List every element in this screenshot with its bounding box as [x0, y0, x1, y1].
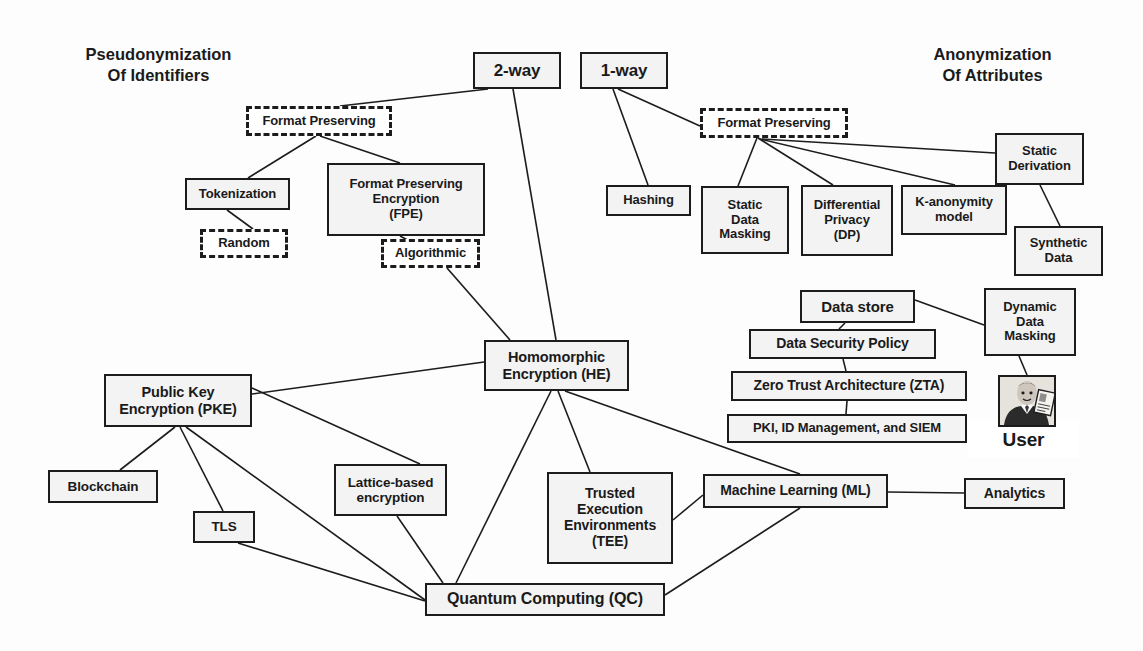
node-qc-label: Quantum Computing (QC) — [447, 590, 643, 608]
node-ml-label: Machine Learning (ML) — [720, 483, 870, 499]
edge-pke-to-lattice — [252, 388, 420, 464]
edge-fp_left-to-tokenization — [248, 136, 316, 178]
edge-tls-to-qc — [238, 543, 425, 601]
node-tokenization-label: Tokenization — [199, 187, 276, 202]
node-sdm[interactable]: StaticDataMasking — [701, 186, 789, 254]
edge-dsp-to-zta — [843, 359, 846, 371]
edge-tee-to-ml — [673, 495, 703, 520]
node-dsp[interactable]: Data Security Policy — [749, 329, 936, 359]
edge-ml-to-analytics — [888, 492, 964, 493]
node-fp_left-label: Format Preserving — [262, 114, 375, 129]
node-random[interactable]: Random — [200, 229, 288, 258]
node-analytics[interactable]: Analytics — [964, 478, 1065, 509]
node-he-label: HomomorphicEncryption (HE) — [502, 349, 610, 382]
edge-fp_right-to-sdm — [738, 138, 757, 186]
edge-ml-to-qc — [665, 508, 800, 595]
node-tls-label: TLS — [211, 519, 236, 534]
node-sdm-label: StaticDataMasking — [719, 198, 770, 242]
edge-two_way-to-he — [513, 89, 556, 340]
node-fp_right[interactable]: Format Preserving — [700, 108, 848, 138]
node-static_deriv[interactable]: StaticDerivation — [995, 133, 1084, 185]
node-hashing-label: Hashing — [623, 193, 674, 208]
node-data_store-label: Data store — [821, 298, 893, 315]
node-pki[interactable]: PKI, ID Management, and SIEM — [727, 414, 967, 443]
node-data_store[interactable]: Data store — [800, 290, 915, 323]
edge-fp_right-to-dp — [758, 138, 833, 185]
edge-zta-to-pki — [846, 401, 847, 414]
node-qc[interactable]: Quantum Computing (QC) — [425, 583, 665, 616]
node-one_way[interactable]: 1-way — [580, 52, 668, 89]
edge-two_way-to-fp_left — [340, 89, 488, 106]
node-static_deriv-label: StaticDerivation — [1008, 144, 1071, 174]
node-synthetic-label: SyntheticData — [1030, 236, 1088, 266]
edge-data_store-to-ddm — [915, 300, 984, 325]
node-fpe[interactable]: Format PreservingEncryption(FPE) — [327, 163, 485, 236]
node-two_way-label: 2-way — [494, 61, 541, 80]
title-anonymization: Anonymization Of Attributes — [890, 44, 1095, 87]
node-kanon[interactable]: K-anonymitymodel — [901, 185, 1007, 235]
edge-ddm-to-user_photo — [1019, 356, 1027, 375]
node-pke[interactable]: Public KeyEncryption (PKE) — [104, 374, 252, 427]
node-random-label: Random — [218, 236, 269, 251]
user-photo-svg — [1000, 377, 1054, 425]
title-anonymization-line2: Of Attributes — [890, 65, 1095, 86]
edge-algorithmic-to-he — [447, 268, 510, 340]
node-dsp-label: Data Security Policy — [776, 336, 909, 352]
edge-he-to-pke — [252, 362, 484, 394]
node-ddm[interactable]: DynamicDataMasking — [984, 288, 1076, 356]
edge-tokenization-to-random — [227, 210, 253, 229]
edge-lattice-to-qc — [397, 516, 443, 583]
node-analytics-label: Analytics — [984, 486, 1045, 502]
node-one_way-label: 1-way — [601, 61, 648, 80]
node-synthetic[interactable]: SyntheticData — [1014, 226, 1103, 276]
node-he[interactable]: HomomorphicEncryption (HE) — [484, 340, 629, 391]
node-zta-label: Zero Trust Architecture (ZTA) — [754, 378, 945, 394]
edge-fp_right-to-static_deriv — [762, 139, 995, 153]
node-fp_left[interactable]: Format Preserving — [246, 106, 392, 136]
node-dp-label: DifferentialPrivacy(DP) — [814, 198, 881, 242]
node-algorithmic-label: Algorithmic — [395, 246, 466, 261]
edge-one_way-to-hashing — [613, 89, 648, 185]
node-ml[interactable]: Machine Learning (ML) — [703, 474, 888, 508]
node-tee[interactable]: TrustedExecutionEnvironments(TEE) — [547, 472, 673, 564]
title-pseudonymization-line2: Of Identifiers — [56, 65, 261, 86]
node-two_way[interactable]: 2-way — [473, 52, 561, 89]
title-anonymization-line1: Anonymization — [890, 44, 1095, 65]
node-user-label: User — [1003, 429, 1045, 451]
node-tls[interactable]: TLS — [193, 511, 255, 543]
edge-he-to-qc — [456, 391, 551, 583]
node-fpe-label: Format PreservingEncryption(FPE) — [349, 177, 462, 221]
node-tee-label: TrustedExecutionEnvironments(TEE) — [564, 486, 656, 550]
node-dp[interactable]: DifferentialPrivacy(DP) — [801, 185, 893, 256]
user-photo-icon — [998, 375, 1056, 427]
node-lattice[interactable]: Lattice-basedencryption — [334, 464, 447, 516]
node-pke-label: Public KeyEncryption (PKE) — [119, 384, 237, 417]
title-pseudonymization: Pseudonymization Of Identifiers — [56, 44, 261, 87]
edge-pke-to-tls — [180, 427, 223, 511]
node-lattice-label: Lattice-basedencryption — [348, 475, 434, 506]
edge-one_way-to-fp_right — [618, 89, 700, 126]
edge-fp_right-to-kanon — [760, 139, 955, 185]
node-fp_right-label: Format Preserving — [717, 116, 830, 131]
edge-he-to-tee — [558, 391, 590, 472]
node-pki-label: PKI, ID Management, and SIEM — [753, 421, 941, 436]
node-algorithmic[interactable]: Algorithmic — [381, 239, 480, 268]
node-tokenization[interactable]: Tokenization — [185, 178, 290, 210]
node-zta[interactable]: Zero Trust Architecture (ZTA) — [731, 371, 967, 401]
node-hashing[interactable]: Hashing — [606, 185, 691, 216]
edge-fp_left-to-fpe — [320, 136, 400, 163]
diagram-canvas: Pseudonymization Of Identifiers Anonymiz… — [0, 0, 1143, 651]
node-blockchain[interactable]: Blockchain — [48, 470, 158, 503]
node-blockchain-label: Blockchain — [67, 479, 138, 494]
edge-static_deriv-to-synthetic — [1040, 185, 1060, 226]
edge-pke-to-blockchain — [120, 427, 175, 470]
node-kanon-label: K-anonymitymodel — [915, 195, 993, 225]
title-pseudonymization-line1: Pseudonymization — [56, 44, 261, 65]
node-ddm-label: DynamicDataMasking — [1003, 300, 1057, 344]
